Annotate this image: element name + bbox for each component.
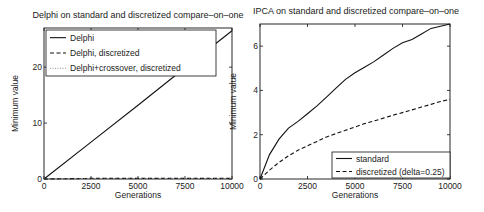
legend-label: standard [356,154,389,164]
ipca-chart: IPCA on standard and discretized compare… [228,6,462,200]
x-tick-label: 0 [42,181,47,191]
legend-label: Delphi, discretized [70,48,140,58]
x-tick-label: 10000 [438,181,462,191]
y-tick-label: 6 [253,41,258,51]
x-axis-label: Generations [115,190,161,200]
legend-label: Delphi [70,33,94,43]
y-tick-label: 0 [37,174,42,184]
legend-label: discretized (delta=0.25) [356,167,445,177]
x-tick-label: 7500 [176,181,195,191]
delphi-chart: Delphi on standard and discretized compa… [10,10,244,200]
x-tick-label: 2500 [82,181,101,191]
legend-label: Delphi+crossover, discretized [70,63,181,73]
x-tick-label: 2500 [298,181,317,191]
x-tick-label: 7500 [393,181,412,191]
x-tick-label: 10000 [220,181,244,191]
x-axis-label: Generations [332,190,378,200]
y-tick-label: 4 [253,85,258,95]
x-tick-label: 0 [258,181,263,191]
chart-title: Delphi on standard and discretized compa… [32,10,243,20]
y-tick-label: 20 [33,62,43,72]
figure: Delphi on standard and discretized compa… [0,0,484,212]
y-tick-label: 0 [253,174,258,184]
y-axis-label: Minimum value [10,75,20,132]
y-axis-label: Minimum value [228,73,238,130]
y-tick-label: 2 [253,130,258,140]
chart-title: IPCA on standard and discretized compare… [253,6,459,16]
y-tick-label: 10 [33,118,43,128]
